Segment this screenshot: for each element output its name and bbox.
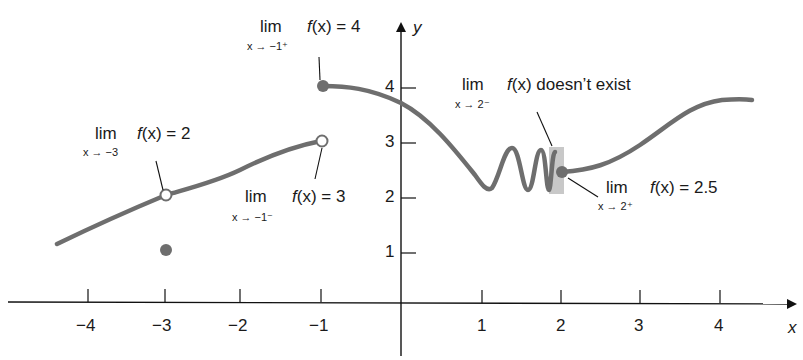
- lim-label: lim: [462, 75, 484, 95]
- lim-label: lim: [260, 17, 282, 37]
- y-tick-label: 4: [385, 77, 394, 97]
- filled-point-2-2.5: [556, 166, 568, 178]
- x-tick-label: 3: [634, 316, 643, 336]
- lim-expression: f(x) = 2: [137, 124, 190, 144]
- open-point-neg1-3: [317, 136, 328, 147]
- lim-label: lim: [606, 178, 628, 198]
- x-ticks: [88, 289, 720, 303]
- lim-expression: f(x) = 4: [307, 17, 360, 37]
- lim-label: lim: [95, 124, 117, 144]
- lim-expression: f(x) = 3: [292, 187, 345, 207]
- lim-subscript: x → −1⁺: [247, 40, 288, 53]
- filled-point-neg3-1: [160, 244, 172, 256]
- lim-subscript: x → −3: [83, 146, 118, 158]
- lim-label: lim: [245, 187, 267, 207]
- open-point-neg3-2: [161, 190, 172, 201]
- y-tick-label: 2: [385, 187, 394, 207]
- lim-expression: f(x) doesn’t exist: [507, 75, 631, 95]
- curve-right: [562, 99, 752, 172]
- filled-point-neg1-4: [317, 80, 329, 92]
- curve-middle: [323, 86, 555, 190]
- x-tick-label: 2: [556, 316, 565, 336]
- x-tick-label: −4: [76, 316, 95, 336]
- x-tick-label: 4: [714, 316, 723, 336]
- x-tick-label: −3: [152, 316, 171, 336]
- x-tick-label: −2: [228, 316, 247, 336]
- y-axis-label: y: [413, 18, 422, 38]
- lim-subscript: x → −1⁻: [232, 211, 273, 224]
- y-tick-label: 3: [385, 132, 394, 152]
- x-axis-label: x: [788, 318, 797, 338]
- lim-subscript: x → 2⁺: [598, 200, 633, 213]
- lim-expression: f(x) = 2.5: [650, 178, 718, 198]
- lim-subscript: x → 2⁻: [455, 98, 490, 111]
- x-tick-label: −1: [309, 316, 328, 336]
- x-tick-label: 1: [477, 316, 486, 336]
- y-tick-label: 1: [385, 242, 394, 262]
